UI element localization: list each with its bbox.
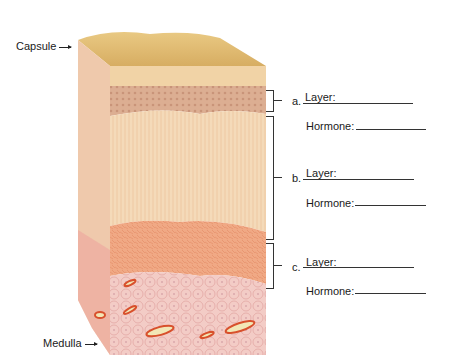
arrow-right-icon (59, 47, 71, 48)
capsule-label: Capsule (16, 40, 71, 52)
zone-b-layer-label: Layer: (306, 167, 337, 179)
medulla-label: Medulla (43, 337, 97, 349)
zone-b-layer-blank[interactable] (303, 179, 414, 180)
bracket-zone-b (266, 116, 274, 240)
bracket-zone-a (266, 90, 274, 112)
bracket-tick-a (274, 100, 282, 101)
zone-c-hormone-blank[interactable] (355, 293, 426, 294)
zone-a-hormone-label: Hormone: (306, 120, 354, 132)
zone-a-layer-blank[interactable] (303, 103, 413, 104)
zone-a-letter: a. (292, 95, 301, 107)
zone-b-hormone-label: Hormone: (306, 197, 354, 209)
bracket-tick-c (274, 265, 282, 266)
zone-a-hormone-blank[interactable] (356, 129, 426, 130)
zone-c-hormone-label: Hormone: (306, 285, 354, 297)
arrow-right-icon (85, 344, 97, 345)
zone-b-letter: b. (292, 172, 301, 184)
zone-c-layer-blank[interactable] (303, 267, 414, 268)
zone-c-letter: c. (292, 261, 301, 273)
capsule-label-text: Capsule (16, 40, 56, 52)
bracket-tick-b (274, 177, 282, 178)
zone-b-hormone-blank[interactable] (355, 205, 426, 206)
zone-a-layer-label: Layer: (305, 91, 336, 103)
adrenal-tissue-block (0, 0, 453, 361)
bracket-zone-c (266, 243, 274, 289)
medulla-label-text: Medulla (43, 337, 82, 349)
